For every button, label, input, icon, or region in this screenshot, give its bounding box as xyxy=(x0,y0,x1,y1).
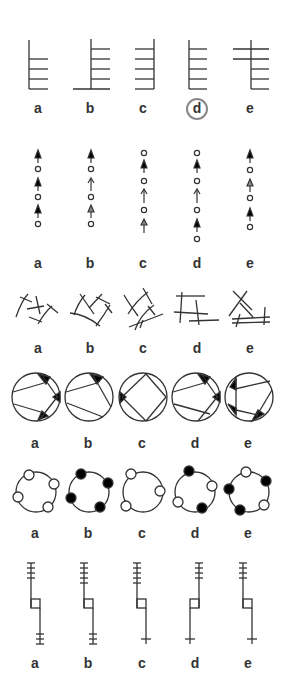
label-d: d xyxy=(172,255,222,271)
label-b: b xyxy=(65,100,115,116)
label-a: a xyxy=(13,340,63,356)
arrow-sequence-b[interactable] xyxy=(88,150,94,227)
stepped-stem-figures xyxy=(0,550,285,650)
stepped-stem-e[interactable] xyxy=(239,563,257,644)
row-stepped-stems: a b c d e xyxy=(0,550,285,678)
row-arrow-sequences: a b c d e xyxy=(0,125,285,270)
arrow-sequence-c[interactable] xyxy=(141,150,147,233)
arrow-sequence-e[interactable] xyxy=(247,150,253,230)
stepped-stem-b[interactable] xyxy=(80,563,97,644)
label-d: d xyxy=(172,340,222,356)
label-c: c xyxy=(117,655,167,671)
label-c: c xyxy=(118,100,168,116)
selected-answer-badge: d xyxy=(186,98,208,120)
inscribed-circle-c[interactable] xyxy=(119,373,167,421)
label-a: a xyxy=(10,435,60,451)
label-b: b xyxy=(63,525,113,541)
label-c: c xyxy=(118,340,168,356)
label-d-selected: d xyxy=(172,98,222,120)
label-b: b xyxy=(63,655,113,671)
arrow-sequence-d[interactable] xyxy=(194,150,200,241)
inscribed-circle-d[interactable] xyxy=(172,373,220,421)
label-e: e xyxy=(223,655,273,671)
inscribed-circle-figures xyxy=(0,360,285,430)
label-b: b xyxy=(65,340,115,356)
label-a: a xyxy=(13,100,63,116)
label-c: c xyxy=(117,525,167,541)
beaded-ring-b[interactable] xyxy=(66,469,113,512)
label-e: e xyxy=(223,525,273,541)
beaded-ring-d[interactable] xyxy=(173,466,217,513)
arrow-sequence-figures xyxy=(0,125,285,245)
stepped-stem-d[interactable] xyxy=(185,563,203,644)
label-c: c xyxy=(117,435,167,451)
ladder-option-a[interactable] xyxy=(29,40,48,89)
label-e: e xyxy=(225,255,275,271)
ladder-figures xyxy=(0,0,285,100)
ladder-option-e[interactable] xyxy=(233,40,269,89)
label-d: d xyxy=(170,525,220,541)
label-a: a xyxy=(13,255,63,271)
ladder-option-c[interactable] xyxy=(135,39,154,89)
inscribed-circle-b[interactable] xyxy=(65,373,113,421)
label-b: b xyxy=(65,255,115,271)
row-ladders: a b c d e xyxy=(0,0,285,125)
arrow-sequence-a[interactable] xyxy=(35,150,41,227)
beaded-ring-a[interactable] xyxy=(13,470,59,512)
inscribed-circle-e[interactable] xyxy=(225,373,273,421)
beaded-ring-e[interactable] xyxy=(224,467,271,515)
inscribed-circle-a[interactable] xyxy=(12,373,60,421)
label-e: e xyxy=(223,435,273,451)
label-a: a xyxy=(10,525,60,541)
ladder-option-d[interactable] xyxy=(189,40,207,89)
crossed-lines-e[interactable] xyxy=(229,291,270,327)
crossed-lines-a[interactable] xyxy=(16,294,58,324)
label-e: e xyxy=(225,340,275,356)
stepped-stem-c[interactable] xyxy=(133,563,151,644)
stepped-stem-a[interactable] xyxy=(27,563,44,644)
beaded-ring-figures xyxy=(0,460,285,520)
label-c: c xyxy=(118,255,168,271)
row-crossed-lines: a b c d e xyxy=(0,270,285,360)
label-a: a xyxy=(10,655,60,671)
crossed-lines-c[interactable] xyxy=(124,288,163,330)
crossed-line-figures xyxy=(0,270,285,330)
ladder-option-b[interactable] xyxy=(73,39,110,89)
label-b: b xyxy=(63,435,113,451)
crossed-lines-d[interactable] xyxy=(174,292,219,325)
label-d: d xyxy=(170,435,220,451)
beaded-ring-c[interactable] xyxy=(121,469,165,512)
row-inscribed-circles: a b c d e xyxy=(0,360,285,460)
label-d: d xyxy=(170,655,220,671)
row-beaded-rings: a b c d e xyxy=(0,460,285,550)
label-e: e xyxy=(225,100,275,116)
crossed-lines-b[interactable] xyxy=(70,294,112,326)
